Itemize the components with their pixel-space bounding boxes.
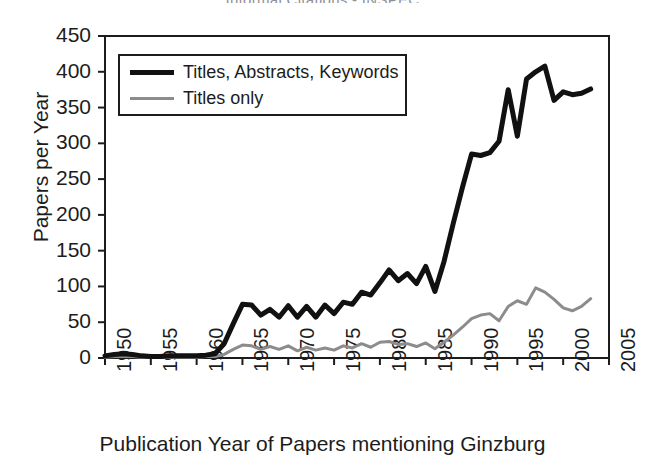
chart-figure: Informal Citations - INSPEC Papers per Y… xyxy=(0,0,645,472)
legend-label: Titles, Abstracts, Keywords xyxy=(183,63,398,81)
legend-label: Titles only xyxy=(183,89,263,107)
legend-item-titles-only: Titles only xyxy=(130,89,263,107)
legend: Titles, Abstracts, Keywords Titles only xyxy=(118,54,407,116)
legend-swatch-gray-line-icon xyxy=(130,97,174,100)
legend-item-titles-abstracts-keywords: Titles, Abstracts, Keywords xyxy=(130,63,398,81)
series-line xyxy=(105,288,591,357)
legend-swatch-dark-line-icon xyxy=(130,70,174,75)
